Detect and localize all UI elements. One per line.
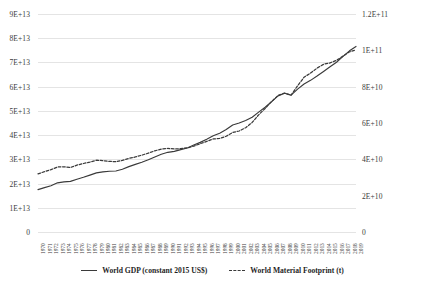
x-axis-tick: 1994 (196, 243, 202, 254)
solid-line-icon (81, 270, 97, 271)
x-axis-tick: 2000 (235, 243, 241, 254)
x-axis-tick: 1974 (66, 243, 72, 254)
left-axis-tick: 7E+13 (0, 58, 30, 67)
x-axis-tick: 1979 (99, 243, 105, 254)
right-axis-tick: 1E+11 (362, 46, 396, 55)
x-axis-tick: 1978 (92, 243, 98, 254)
left-axis-tick: 9E+13 (0, 10, 30, 19)
x-axis-tick: 2014 (326, 243, 332, 254)
x-axis-tick: 1973 (60, 243, 66, 254)
x-axis-tick: 1990 (170, 243, 176, 254)
x-axis-tick: 1995 (202, 243, 208, 254)
x-axis-tick: 2009 (293, 243, 299, 254)
legend-label: World Material Footprint (t) (250, 266, 343, 275)
x-axis-tick: 1975 (73, 243, 79, 254)
left-axis-tick: 6E+13 (0, 83, 30, 92)
legend-label: World GDP (constant 2015 US$) (102, 266, 207, 275)
legend-item[interactable]: World GDP (constant 2015 US$) (81, 266, 207, 275)
series-line (38, 46, 356, 189)
x-axis-tick: 2005 (267, 243, 273, 254)
left-axis-tick: 3E+13 (0, 155, 30, 164)
x-axis-tick: 1993 (189, 243, 195, 254)
x-axis-tick: 2018 (352, 243, 358, 254)
x-axis-tick: 1987 (150, 243, 156, 254)
left-axis-tick: 1E+13 (0, 204, 30, 213)
left-axis-tick: 5E+13 (0, 107, 30, 116)
right-axis-tick: 4E+10 (362, 155, 396, 164)
gridline (38, 232, 356, 233)
left-axis-tick: 4E+13 (0, 131, 30, 140)
x-axis-tick: 2008 (287, 243, 293, 254)
x-axis-tick: 2011 (306, 243, 312, 254)
x-axis-tick: 2012 (313, 243, 319, 254)
chart-legend: World GDP (constant 2015 US$)World Mater… (0, 266, 425, 275)
x-axis-tick: 1989 (163, 243, 169, 254)
x-axis-tick: 2017 (345, 243, 351, 254)
plot-area (38, 14, 356, 232)
x-axis-tick: 1970 (40, 243, 46, 254)
x-axis-tick: 2016 (339, 243, 345, 254)
x-axis-tick: 1976 (79, 243, 85, 254)
right-axis-tick: 6E+10 (362, 119, 396, 128)
right-axis-tick: 1.2E+11 (362, 10, 396, 19)
x-axis-tick: 2013 (319, 243, 325, 254)
x-axis-tick: 1998 (222, 243, 228, 254)
x-axis-tick: 1991 (176, 243, 182, 254)
left-axis-tick: 8E+13 (0, 34, 30, 43)
x-axis-tick: 1981 (111, 243, 117, 254)
x-axis-tick: 2006 (274, 243, 280, 254)
x-axis-tick: 2002 (248, 243, 254, 254)
series-lines (38, 14, 356, 232)
left-axis-tick: 2E+13 (0, 180, 30, 189)
x-axis-tick: 2019 (358, 243, 364, 254)
x-axis-tick: 1977 (86, 243, 92, 254)
x-axis-tick: 1996 (209, 243, 215, 254)
dashed-line-icon (229, 270, 245, 271)
x-axis-tick: 1972 (53, 243, 59, 254)
x-axis-tick: 2010 (300, 243, 306, 254)
x-axis-tick: 1971 (47, 243, 53, 254)
x-axis-tick: 2003 (254, 243, 260, 254)
left-axis-tick: 0 (0, 228, 30, 237)
x-axis-tick: 2001 (241, 243, 247, 254)
dual-axis-line-chart: 01E+132E+133E+134E+135E+136E+137E+138E+1… (0, 0, 425, 290)
x-axis-tick: 2004 (261, 243, 267, 254)
right-axis-tick: 8E+10 (362, 83, 396, 92)
x-axis-tick: 2007 (280, 243, 286, 254)
x-axis-tick: 2015 (332, 243, 338, 254)
x-axis-tick: 1985 (137, 243, 143, 254)
right-axis-tick: 2E+10 (362, 192, 396, 201)
series-line (38, 50, 356, 174)
right-axis-tick: 0 (362, 228, 396, 237)
x-axis-tick: 1997 (215, 243, 221, 254)
x-axis-tick: 1992 (183, 243, 189, 254)
x-axis-tick: 1983 (124, 243, 130, 254)
legend-item[interactable]: World Material Footprint (t) (229, 266, 343, 275)
x-axis-tick: 1988 (157, 243, 163, 254)
x-axis-tick: 1999 (228, 243, 234, 254)
